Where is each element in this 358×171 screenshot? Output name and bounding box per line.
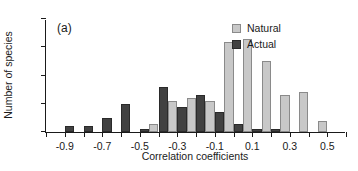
legend: Natural Actual bbox=[232, 22, 281, 54]
bar-actual--0.1 bbox=[215, 112, 224, 132]
bar-actual--0.6 bbox=[121, 104, 130, 132]
x-tick-0.4 bbox=[309, 132, 310, 137]
bar-natural-0.1 bbox=[262, 61, 271, 132]
bar-actual--0.5 bbox=[140, 129, 149, 132]
bar-natural--0.1 bbox=[224, 42, 233, 132]
x-tick--0.5 bbox=[140, 132, 141, 137]
y-axis-title: Number of species bbox=[2, 15, 14, 135]
legend-swatch-natural-icon bbox=[232, 24, 241, 33]
bar-natural-0.3 bbox=[299, 92, 308, 132]
bar-actual-0.2 bbox=[271, 129, 280, 132]
x-tick--0.8 bbox=[84, 132, 85, 137]
x-tick-0.5 bbox=[327, 132, 328, 137]
x-tick--1 bbox=[46, 132, 47, 137]
legend-label-natural: Natural bbox=[247, 22, 281, 34]
bar-actual-0.1 bbox=[252, 129, 261, 132]
legend-label-actual: Actual bbox=[247, 38, 276, 50]
x-tick-0.2 bbox=[271, 132, 272, 137]
y-tick-10 bbox=[41, 103, 46, 104]
x-axis-title: Correlation coefficients bbox=[45, 150, 345, 162]
bar-natural--0.5 bbox=[149, 124, 158, 132]
bar-actual--0.3 bbox=[177, 107, 186, 132]
x-tick-0 bbox=[234, 132, 235, 137]
x-tick--0.9 bbox=[65, 132, 66, 137]
x-tick-0.1 bbox=[252, 132, 253, 137]
y-tick-20 bbox=[41, 75, 46, 76]
bar-natural-0.4 bbox=[318, 121, 327, 132]
bar-natural--0.3 bbox=[187, 98, 196, 132]
x-tick--0.6 bbox=[121, 132, 122, 137]
x-tick--0.1 bbox=[215, 132, 216, 137]
x-tick--0.4 bbox=[159, 132, 160, 137]
bar-actual--0.8 bbox=[84, 126, 93, 132]
y-tick-30 bbox=[41, 46, 46, 47]
bar-series-container bbox=[46, 20, 345, 132]
bar-natural--0.4 bbox=[168, 101, 177, 132]
legend-item-natural: Natural bbox=[232, 22, 281, 34]
y-tick-40 bbox=[41, 18, 46, 19]
bar-actual-0.0 bbox=[234, 124, 243, 132]
x-tick--0.7 bbox=[102, 132, 103, 137]
bar-natural-0.2 bbox=[280, 95, 289, 132]
x-tick--0.3 bbox=[177, 132, 178, 137]
x-tick-0.6 bbox=[346, 132, 347, 137]
x-tick--0.2 bbox=[196, 132, 197, 137]
bar-natural--0.2 bbox=[205, 101, 214, 132]
bar-actual--0.9 bbox=[65, 126, 74, 132]
x-tick-0.3 bbox=[290, 132, 291, 137]
bar-actual--0.2 bbox=[196, 95, 205, 132]
bar-actual--0.4 bbox=[159, 87, 168, 132]
legend-item-actual: Actual bbox=[232, 38, 281, 50]
plot-area: 010203040 -0.9-0.7-0.5-0.3-0.10.10.30.5 … bbox=[45, 20, 345, 133]
bar-actual--0.7 bbox=[102, 118, 111, 132]
figure-panel-a: (a) 010203040 -0.9-0.7-0.5-0.3-0.10.10.3… bbox=[0, 0, 358, 171]
legend-swatch-actual-icon bbox=[232, 40, 241, 49]
